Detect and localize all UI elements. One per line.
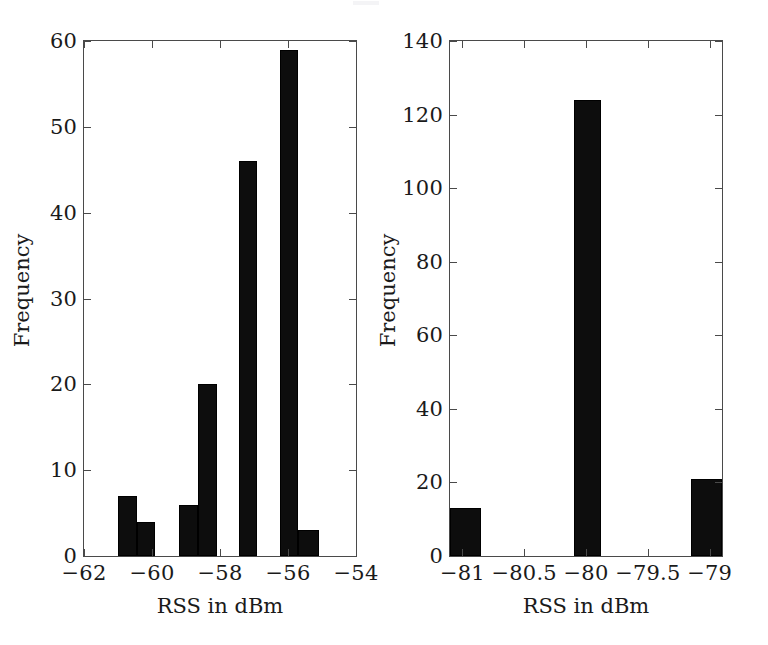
y-axis-tick <box>84 41 91 42</box>
y-axis-title-right: Frequency <box>378 231 399 351</box>
x-axis-tick <box>152 549 153 556</box>
y-axis-tick <box>84 299 91 300</box>
x-axis-tick <box>462 549 463 556</box>
y-axis-tick <box>84 127 91 128</box>
y-axis-tick <box>349 470 356 471</box>
x-axis-tick <box>462 41 463 48</box>
histogram-bar <box>298 530 318 556</box>
y-axis-tick-label: 30 <box>50 288 77 309</box>
x-axis-tick-label: −80.5 <box>491 563 556 584</box>
y-axis-tick <box>715 335 722 336</box>
x-axis-title-right: RSS in dBm <box>449 596 723 617</box>
figure-canvas: Frequency 0102030405060−62−60−58−56−54 R… <box>0 0 768 645</box>
y-axis-tick-label: 20 <box>50 374 77 395</box>
y-axis-tick-label: 60 <box>50 31 77 52</box>
y-axis-tick-label: 140 <box>402 31 443 52</box>
histogram-bar <box>239 161 258 556</box>
y-axis-tick <box>715 188 722 189</box>
x-axis-tick <box>524 549 525 556</box>
y-axis-tick-label: 20 <box>416 472 443 493</box>
y-axis-tick <box>349 41 356 42</box>
plot-area-left: 0102030405060−62−60−58−56−54 <box>83 40 357 557</box>
histogram-bar <box>691 479 722 556</box>
x-axis-tick-label: −58 <box>198 563 243 584</box>
y-axis-tick <box>450 262 457 263</box>
histogram-bar <box>450 508 481 556</box>
y-axis-tick <box>349 384 356 385</box>
y-axis-tick <box>715 41 722 42</box>
x-axis-tick-label: −80 <box>564 563 609 584</box>
y-axis-tick <box>84 470 91 471</box>
x-axis-tick <box>288 41 289 48</box>
x-axis-tick <box>220 41 221 48</box>
x-axis-tick <box>586 549 587 556</box>
histogram-panel-left: Frequency 0102030405060−62−60−58−56−54 R… <box>0 0 384 645</box>
x-axis-tick-label: −81 <box>440 563 485 584</box>
x-axis-tick-label: −79 <box>687 563 732 584</box>
y-axis-tick-label: 100 <box>402 178 443 199</box>
histogram-bar <box>280 50 299 556</box>
y-axis-tick <box>450 409 457 410</box>
y-axis-tick <box>450 335 457 336</box>
x-axis-tick <box>356 41 357 48</box>
x-axis-tick <box>710 41 711 48</box>
y-axis-tick <box>84 213 91 214</box>
x-axis-tick <box>288 549 289 556</box>
plot-area-right: 020406080100120140−81−80.5−80−79.5−79 <box>449 40 723 557</box>
y-axis-tick <box>349 556 356 557</box>
y-axis-tick <box>715 409 722 410</box>
bar-series-left <box>84 41 356 556</box>
x-axis-tick <box>648 549 649 556</box>
y-axis-tick <box>349 213 356 214</box>
x-axis-tick <box>84 549 85 556</box>
x-axis-tick-label: −54 <box>334 563 379 584</box>
x-axis-tick-label: −62 <box>62 563 107 584</box>
x-axis-tick <box>220 549 221 556</box>
y-axis-tick <box>450 556 457 557</box>
histogram-panel-right: Frequency 020406080100120140−81−80.5−80−… <box>384 0 768 645</box>
x-axis-tick <box>710 549 711 556</box>
y-axis-tick-label: 60 <box>416 325 443 346</box>
x-axis-tick-label: −60 <box>130 563 175 584</box>
x-axis-tick-label: −56 <box>266 563 311 584</box>
y-axis-tick <box>349 299 356 300</box>
x-axis-tick <box>152 41 153 48</box>
y-axis-tick <box>450 115 457 116</box>
y-axis-tick <box>84 384 91 385</box>
y-axis-tick-label: 10 <box>50 460 77 481</box>
x-axis-tick <box>586 41 587 48</box>
y-axis-tick-label: 120 <box>402 104 443 125</box>
bar-series-right <box>450 41 722 556</box>
y-axis-tick <box>450 482 457 483</box>
x-axis-tick-label: −79.5 <box>615 563 680 584</box>
y-axis-tick <box>715 556 722 557</box>
y-axis-tick-label: 40 <box>50 202 77 223</box>
x-axis-tick <box>356 549 357 556</box>
y-axis-tick <box>715 262 722 263</box>
y-axis-tick <box>715 115 722 116</box>
y-axis-tick-label: 80 <box>416 251 443 272</box>
histogram-bar <box>179 505 198 557</box>
y-axis-tick <box>450 41 457 42</box>
x-axis-tick <box>84 41 85 48</box>
x-axis-tick <box>648 41 649 48</box>
x-axis-tick <box>524 41 525 48</box>
y-axis-title-left: Frequency <box>12 231 33 351</box>
histogram-bar <box>574 100 601 556</box>
y-axis-tick <box>349 127 356 128</box>
histogram-bar <box>198 384 217 556</box>
y-axis-tick-label: 40 <box>416 398 443 419</box>
y-axis-tick-label: 50 <box>50 116 77 137</box>
x-axis-title-left: RSS in dBm <box>83 596 357 617</box>
y-axis-tick <box>450 188 457 189</box>
y-axis-tick <box>84 556 91 557</box>
histogram-bar <box>118 496 137 556</box>
y-axis-tick <box>715 482 722 483</box>
